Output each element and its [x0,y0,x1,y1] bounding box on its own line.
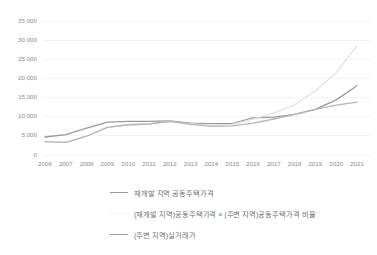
x-axis-tick-label: 2009 [101,160,115,167]
x-axis-tick-label: 2012 [163,160,177,167]
legend-swatch-line-2 [110,234,128,235]
series-line-1 [45,46,357,142]
x-axis-tick-labels: 2006200720082009201020112012201320142015… [38,160,364,167]
x-axis-tick-label: 2011 [142,160,156,167]
y-axis-tick-label: 10,000 [18,112,37,119]
legend-item-2: (주변 지역)실거래가 [0,224,377,245]
x-axis-tick-label: 2020 [329,160,343,167]
chart-container: 35,00030,00025,00020,00015,00010,0005,00… [0,0,377,255]
y-axis-tick-label: 35,000 [18,17,37,24]
y-axis-tick-label: 0 [34,151,38,158]
x-axis-tick-label: 2006 [38,160,52,167]
legend-label-1: (재개발 지역)공동주택가격 × (주변 지역)공동주택가격 비율 [134,209,315,219]
x-axis-tick-label: 2014 [205,160,219,167]
y-axis-tick-label: 15,000 [18,93,37,100]
series-line-0 [45,86,357,137]
series-line-2 [45,102,357,142]
x-axis-tick-label: 2008 [80,160,94,167]
x-axis-tick-label: 2019 [309,160,323,167]
x-axis-tick-label: 2015 [225,160,239,167]
series-lines [45,46,357,142]
legend-label-0: 재개발 지역 공동주택가격 [134,188,214,198]
x-axis-tick-label: 2016 [246,160,260,167]
x-axis-tick-label: 2007 [59,160,73,167]
legend-item-1: (재개발 지역)공동주택가격 × (주변 지역)공동주택가격 비율 [0,203,377,224]
y-axis-tick-label: 25,000 [18,55,37,62]
y-axis-tick-labels: 35,00030,00025,00020,00015,00010,0005,00… [18,17,37,158]
x-axis-tick-label: 2010 [121,160,135,167]
x-axis-tick-label: 2013 [184,160,198,167]
y-axis-tick-label: 20,000 [18,74,37,81]
y-axis-tick-label: 30,000 [18,36,37,43]
legend-item-0: 재개발 지역 공동주택가격 [0,182,377,203]
legend-swatch-line-1 [110,213,128,214]
y-axis-tick-label: 5,000 [22,131,38,138]
x-axis-tick-label: 2018 [288,160,302,167]
legend-swatch-line-0 [110,192,128,193]
legend-label-2: (주변 지역)실거래가 [134,230,196,240]
chart-legend: 재개발 지역 공동주택가격 (재개발 지역)공동주택가격 × (주변 지역)공동… [0,182,377,245]
x-axis-tick-label: 2017 [267,160,281,167]
x-axis-tick-label: 2021 [350,160,364,167]
